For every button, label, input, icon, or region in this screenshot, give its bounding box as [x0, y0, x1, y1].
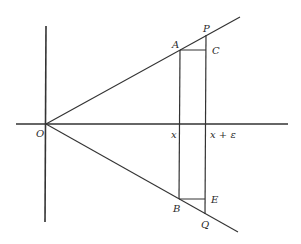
- label-C: C: [212, 45, 220, 56]
- label-x: x: [171, 129, 177, 140]
- upper-ray: [46, 17, 240, 124]
- label-A: A: [171, 39, 179, 50]
- label-E: E: [210, 194, 219, 205]
- x-plus-epsilon-vertical-line: [205, 35, 206, 214]
- x-vertical-line: [179, 50, 180, 199]
- label-origin: O: [36, 128, 44, 139]
- label-x-plus-epsilon: x + ε: [210, 129, 236, 140]
- label-B: B: [172, 203, 180, 214]
- lower-ray: [46, 124, 238, 232]
- label-Q: Q: [201, 219, 209, 230]
- label-P: P: [202, 23, 210, 34]
- vertical-axis: [45, 26, 46, 222]
- cone-strip-diagram: O A P C x x + ε E B Q: [0, 0, 301, 244]
